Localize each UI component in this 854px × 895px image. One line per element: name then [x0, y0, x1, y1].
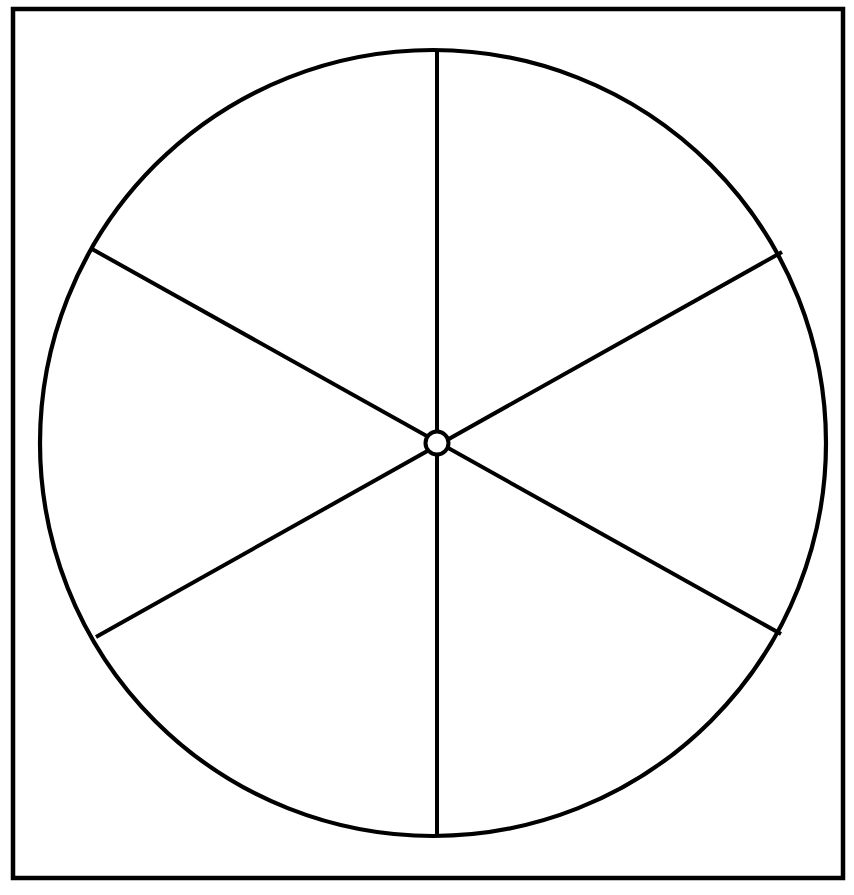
sectored-circle-figure — [0, 0, 854, 895]
figure-canvas: Sectored Circle Diagram line-drawing 1 2… — [0, 0, 854, 895]
